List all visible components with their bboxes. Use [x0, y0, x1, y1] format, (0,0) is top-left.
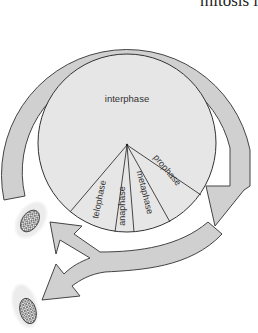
cell-cycle-diagram: mitosis is to int: [0, 0, 258, 333]
header-text-fragment: mitosis is to: [200, 0, 258, 11]
division-arrow: [42, 222, 222, 300]
diagram-svg: interphase telophase anaphase metaphase …: [0, 0, 258, 333]
label-interphase: interphase: [105, 93, 149, 104]
daughter-cell-2: [8, 282, 43, 331]
cycle-pie: [38, 54, 216, 232]
label-anaphase: anaphase: [117, 186, 127, 226]
daughter-cell-1: [9, 196, 53, 244]
